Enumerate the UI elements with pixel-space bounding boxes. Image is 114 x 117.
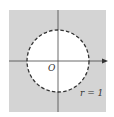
radius-label: r = 1	[80, 88, 103, 98]
origin-label: O	[48, 63, 56, 73]
unit-circle-diagram: O r = 1	[0, 0, 114, 117]
